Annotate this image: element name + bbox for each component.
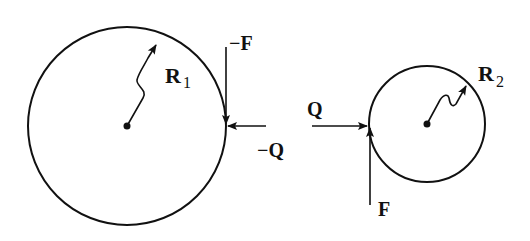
body-1: R1: [28, 27, 226, 225]
radius-arrow-2-icon: [427, 86, 466, 124]
contact-force-diagram: R1 R2 −F −Q Q F: [0, 0, 530, 241]
minus-q-label: −Q: [257, 139, 284, 161]
radius-arrow-1-icon: [127, 45, 156, 126]
q-label: Q: [307, 98, 323, 120]
radius-label-2: R2: [478, 61, 504, 90]
force-f: F: [370, 128, 390, 220]
minus-f-label: −F: [229, 32, 253, 54]
body-2: R2: [369, 61, 504, 182]
radius-label-1: R1: [165, 63, 191, 91]
f-label: F: [378, 198, 390, 220]
force-q: Q: [307, 98, 367, 126]
force-minus-f: −F: [226, 32, 253, 124]
force-minus-q: −Q: [228, 126, 284, 161]
